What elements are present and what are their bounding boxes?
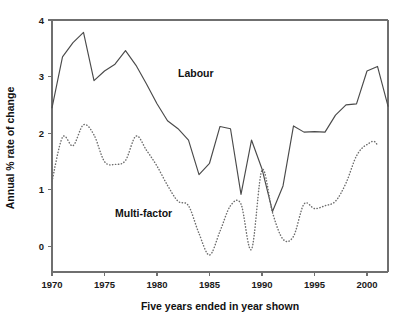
series-annotation-multi-factor: Multi-factor: [115, 207, 172, 219]
y-tick-label: 4: [39, 15, 45, 26]
y-tick-label: 3: [39, 71, 44, 82]
y-tick-label: 2: [39, 128, 44, 139]
y-axis-title: Annual % rate of change: [4, 87, 16, 210]
y-tick-label: 0: [39, 241, 44, 252]
chart-container: 43210 1970197519801985199019952000 Labou…: [0, 0, 405, 325]
y-axis-ticks: 43210: [39, 15, 52, 253]
x-tick-label: 1995: [304, 279, 326, 290]
series-group: [52, 32, 388, 255]
line-chart: 43210 1970197519801985199019952000 Labou…: [0, 0, 405, 325]
x-tick-label: 1975: [94, 279, 116, 290]
x-tick-label: 2000: [356, 279, 377, 290]
x-axis-title: Five years ended in year shown: [141, 300, 299, 312]
plot-frame: [52, 20, 388, 272]
y-tick-label: 1: [39, 184, 45, 195]
series-line-labour: [52, 32, 388, 211]
x-tick-label: 1985: [199, 279, 221, 290]
x-tick-label: 1970: [41, 279, 62, 290]
x-tick-label: 1990: [251, 279, 272, 290]
x-axis-ticks: 1970197519801985199019952000: [41, 272, 377, 290]
x-tick-label: 1980: [146, 279, 167, 290]
series-annotation-labour: Labour: [178, 67, 214, 79]
